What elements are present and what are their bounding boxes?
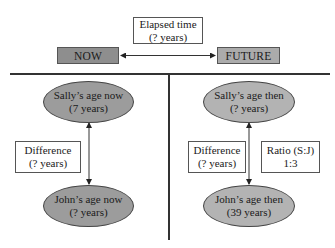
john-age-then-label: John’s age then: [215, 193, 283, 206]
john-age-now-label: John’s age now: [55, 193, 123, 206]
elapsed-time-value: (? years): [149, 31, 187, 44]
john-age-now-value: (? years): [69, 206, 107, 219]
john-age-then-value: (39 years): [227, 206, 271, 219]
future-difference-label: Difference: [194, 144, 241, 157]
future-box: FUTURE: [217, 47, 280, 64]
age-problem-diagram: Elapsed time (? years) NOW FUTURE Sally’…: [0, 0, 335, 248]
now-label: NOW: [74, 50, 102, 62]
future-difference-box: Difference (? years): [188, 141, 246, 173]
elapsed-time-box: Elapsed time (? years): [133, 17, 203, 44]
ratio-value: 1:3: [283, 157, 297, 170]
horizontal-divider: [10, 73, 330, 75]
now-box: NOW: [57, 47, 119, 64]
sally-age-now-value: (7 years): [69, 102, 108, 115]
now-difference-box: Difference (? years): [15, 141, 81, 173]
future-label: FUTURE: [226, 50, 272, 62]
sally-age-now-ellipse: Sally’s age now (7 years): [43, 81, 134, 123]
john-age-then-ellipse: John’s age then (39 years): [203, 185, 295, 227]
ratio-box: Ratio (S:J) 1:3: [261, 141, 320, 173]
future-difference-value: (? years): [198, 157, 236, 170]
sally-age-then-value: (? years): [230, 102, 268, 115]
john-age-now-ellipse: John’s age now (? years): [43, 185, 134, 227]
ratio-label: Ratio (S:J): [267, 144, 314, 157]
now-difference-value: (? years): [29, 157, 67, 170]
sally-age-now-label: Sally’s age now: [54, 89, 124, 102]
now-difference-label: Difference: [25, 144, 72, 157]
elapsed-time-label: Elapsed time: [139, 18, 196, 31]
sally-age-then-label: Sally’s age then: [214, 89, 284, 102]
vertical-divider: [168, 74, 170, 240]
sally-age-then-ellipse: Sally’s age then (? years): [203, 81, 295, 123]
